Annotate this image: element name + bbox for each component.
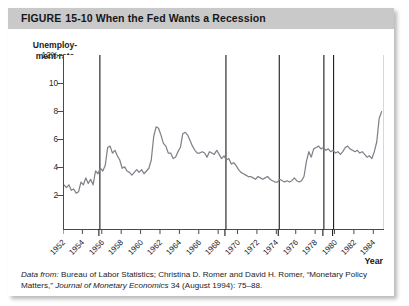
figure-title: FIGURE15-10When the Fed Wants a Recessio… — [21, 12, 266, 24]
figure-body: Unemploy- ment rate 12% 10 8 6 4 2 — [8, 29, 394, 296]
figure-number: 15-10 — [61, 12, 95, 24]
figure-title-text: When the Fed Wants a Recession — [96, 12, 266, 24]
source-journal: Journal of Monetary Economics — [55, 281, 168, 290]
x-tick-label-1964: 1964 — [165, 238, 184, 257]
unemployment-line-chart — [64, 55, 384, 229]
figure-root: FIGURE15-10When the Fed Wants a Recessio… — [0, 0, 409, 306]
x-tick-label-1984: 1984 — [359, 238, 378, 257]
source-note: Data from: Bureau of Labor Statistics; C… — [21, 269, 381, 292]
y-tick-label-2: 2 — [28, 191, 58, 200]
y-tick-label-6: 6 — [28, 135, 58, 144]
y-tick-label-10: 10 — [28, 79, 58, 88]
x-tick-label-1956: 1956 — [87, 238, 106, 257]
plot-right-edge — [383, 55, 384, 229]
plot-area — [63, 55, 384, 230]
y-tick-label-12: 12% — [28, 51, 58, 60]
y-tick-label-4: 4 — [28, 163, 58, 172]
x-tick-label-1962: 1962 — [145, 238, 164, 257]
x-tick-label-1968: 1968 — [203, 238, 222, 257]
x-axis-ticks — [63, 229, 385, 237]
x-tick-label-1978: 1978 — [300, 238, 319, 257]
y-axis-ticks — [56, 51, 66, 233]
figure-card: FIGURE15-10When the Fed Wants a Recessio… — [8, 8, 394, 296]
x-tick-label-1974: 1974 — [262, 238, 281, 257]
y-tick-label-8: 8 — [28, 107, 58, 116]
x-axis-title: Year — [364, 256, 383, 266]
x-tick-label-1954: 1954 — [68, 238, 87, 257]
x-tick-label-1982: 1982 — [339, 238, 358, 257]
source-body-2: 34 (August 1994): 75–88. — [169, 281, 263, 290]
figure-label: FIGURE — [21, 12, 61, 24]
x-tick-label-1976: 1976 — [281, 238, 300, 257]
x-tick-label-1972: 1972 — [242, 238, 261, 257]
source-lead: Data from: — [21, 270, 59, 279]
x-tick-label-1980: 1980 — [320, 238, 339, 257]
figure-title-band: FIGURE15-10When the Fed Wants a Recessio… — [8, 8, 394, 29]
x-tick-label-1960: 1960 — [126, 238, 145, 257]
x-tick-label-1970: 1970 — [223, 238, 242, 257]
x-tick-label-1952: 1952 — [48, 238, 67, 257]
y-axis-title-line1: Unemploy- — [22, 40, 88, 51]
x-tick-label-1958: 1958 — [106, 238, 125, 257]
x-tick-label-1966: 1966 — [184, 238, 203, 257]
